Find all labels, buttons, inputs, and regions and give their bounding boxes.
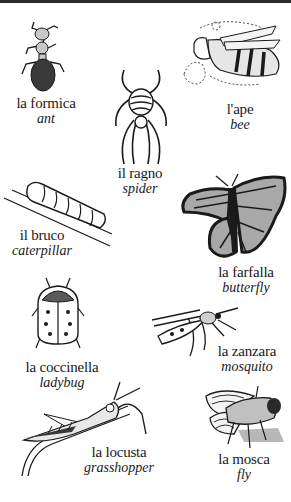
insect-label-caterpillar: il bruco caterpillar xyxy=(2,228,82,258)
english-name: butterfly xyxy=(206,280,286,295)
italian-name: il ragno xyxy=(100,166,180,181)
italian-name: la mosca xyxy=(206,452,282,467)
italian-name: l'ape xyxy=(200,102,280,117)
italian-name: il bruco xyxy=(2,228,82,243)
ant-icon xyxy=(18,18,68,93)
english-name: mosquito xyxy=(212,359,282,374)
butterfly-icon xyxy=(180,172,288,262)
spider-icon xyxy=(114,68,168,166)
insect-label-butterfly: la farfalla butterfly xyxy=(206,265,286,295)
insect-label-bee: l'ape bee xyxy=(200,102,280,132)
insect-label-mosquito: la zanzara mosquito xyxy=(212,344,282,374)
english-name: ant xyxy=(6,111,86,126)
insect-label-ant: la formica ant xyxy=(6,96,86,126)
insect-label-grasshopper: la locusta grasshopper xyxy=(74,445,164,475)
bee-icon xyxy=(180,18,288,90)
fly-icon xyxy=(204,382,284,454)
english-name: grasshopper xyxy=(74,460,164,475)
italian-name: la zanzara xyxy=(212,344,282,359)
italian-name: la locusta xyxy=(74,445,164,460)
english-name: caterpillar xyxy=(2,243,82,258)
insect-label-fly: la mosca fly xyxy=(206,452,282,482)
english-name: bee xyxy=(200,117,280,132)
italian-name: la farfalla xyxy=(206,265,286,280)
italian-name: la formica xyxy=(6,96,86,111)
italian-name: la coccinella xyxy=(14,360,110,375)
ladybug-icon xyxy=(30,278,86,350)
english-name: fly xyxy=(206,467,282,482)
top-border xyxy=(0,0,291,3)
